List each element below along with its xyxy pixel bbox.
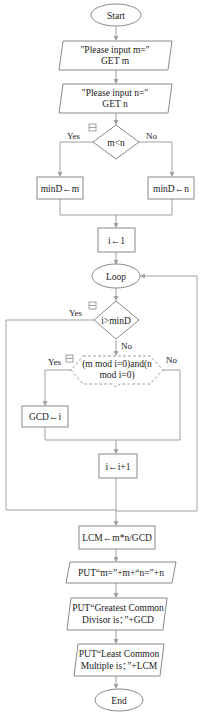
svg-text:PUT“Greatest Common: PUT“Greatest Common <box>72 603 164 613</box>
svg-text:i←i+1: i←i+1 <box>106 462 131 472</box>
start-terminal: Start <box>91 4 141 26</box>
put-lcm-parallelogram: PUT“Least Common Multiple is：”+LCM <box>74 644 164 676</box>
svg-text:i←1: i←1 <box>108 236 125 246</box>
svg-text:GET n: GET n <box>102 99 128 109</box>
svg-text:(m mod i=0)and(n: (m mod i=0)and(n <box>82 359 152 370</box>
svg-text:Divisor is：”+GCD: Divisor is：”+GCD <box>82 615 154 625</box>
svg-text:minD←m: minD←m <box>41 184 80 194</box>
minus-box-icon[interactable] <box>89 124 96 131</box>
yes-label: Yes <box>69 308 83 318</box>
decision-i-greater-mind: i>minD Yes No <box>69 301 139 351</box>
decision-mod: (m mod i=0)and(n mod i=0) Yes No <box>48 355 177 387</box>
input-m-parallelogram: "Please input m=" GET m <box>59 41 172 70</box>
svg-text:End: End <box>111 696 127 706</box>
svg-text:PUT“Least Common: PUT“Least Common <box>79 649 160 659</box>
no-label: No <box>146 131 157 141</box>
input-n-parallelogram: "Please input n=" GET n <box>59 84 172 113</box>
yes-label: Yes <box>48 357 62 367</box>
svg-text:Multiple is：”+LCM: Multiple is：”+LCM <box>81 661 158 671</box>
svg-text:LCM←m*n/GCD: LCM←m*n/GCD <box>82 533 152 543</box>
minus-box-icon[interactable] <box>89 302 96 309</box>
svg-text:Loop: Loop <box>106 272 126 282</box>
assign-gcd: GCD←i <box>22 406 68 427</box>
no-label: No <box>121 341 132 351</box>
loop-connector: Loop <box>92 264 140 288</box>
assign-mind-m: minD←m <box>37 177 83 199</box>
increment-i: i←i+1 <box>99 454 137 478</box>
no-label: No <box>166 355 177 365</box>
assign-lcm: LCM←m*n/GCD <box>79 526 155 549</box>
svg-text:PUT“m=”+m+“n=”+n: PUT“m=”+m+“n=”+n <box>78 568 164 578</box>
svg-text:mod i=0): mod i=0) <box>99 370 134 381</box>
put-m-n-parallelogram: PUT“m=”+m+“n=”+n <box>66 562 176 583</box>
svg-text:"Please input m=": "Please input m=" <box>80 45 149 55</box>
yes-label: Yes <box>67 131 81 141</box>
svg-text:m<n: m<n <box>107 138 125 148</box>
svg-text:"Please input n=": "Please input n=" <box>82 88 149 98</box>
assign-mind-n: minD←n <box>148 177 194 199</box>
flowchart: Start "Please input m=" GET m "Please in… <box>0 0 202 714</box>
init-i: i←1 <box>98 228 135 252</box>
end-terminal: End <box>95 689 143 711</box>
minus-box-icon[interactable] <box>66 355 73 362</box>
svg-text:Start: Start <box>107 11 125 21</box>
svg-text:i>minD: i>minD <box>101 316 131 326</box>
svg-text:GCD←i: GCD←i <box>29 412 62 422</box>
svg-text:GET m: GET m <box>101 56 130 66</box>
put-gcd-parallelogram: PUT“Greatest Common Divisor is：”+GCD <box>67 598 167 630</box>
svg-text:minD←n: minD←n <box>153 184 189 194</box>
